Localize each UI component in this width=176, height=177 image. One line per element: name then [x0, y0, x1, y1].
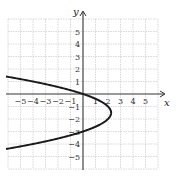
y-tick-label: −2 — [68, 115, 80, 124]
y-tick-label: 5 — [75, 28, 80, 37]
y-tick-label: 4 — [75, 40, 80, 49]
x-axis-label: x — [164, 97, 170, 108]
y-tick-label: 3 — [75, 53, 80, 62]
y-axis-label: y — [72, 6, 79, 17]
x-tick-label: −3 — [40, 97, 52, 106]
x-tick-label: −2 — [52, 97, 64, 106]
x-tick-label: 5 — [143, 97, 148, 106]
x-tick-label: 3 — [118, 97, 123, 106]
y-tick-label: −4 — [68, 140, 80, 149]
x-tick-label: 4 — [130, 97, 135, 106]
y-tick-label: 1 — [75, 78, 80, 87]
coordinate-plane: x y −5−4−3−2−112345 54321−1−2−3−4−5 — [0, 0, 176, 177]
x-tick-label: −4 — [27, 97, 39, 106]
x-tick-label: −5 — [15, 97, 27, 106]
y-tick-label: −5 — [68, 153, 80, 162]
y-tick-label: −1 — [68, 103, 80, 112]
y-tick-label: 2 — [75, 65, 80, 74]
x-tick-labels: −5−4−3−2−112345 — [15, 97, 148, 106]
